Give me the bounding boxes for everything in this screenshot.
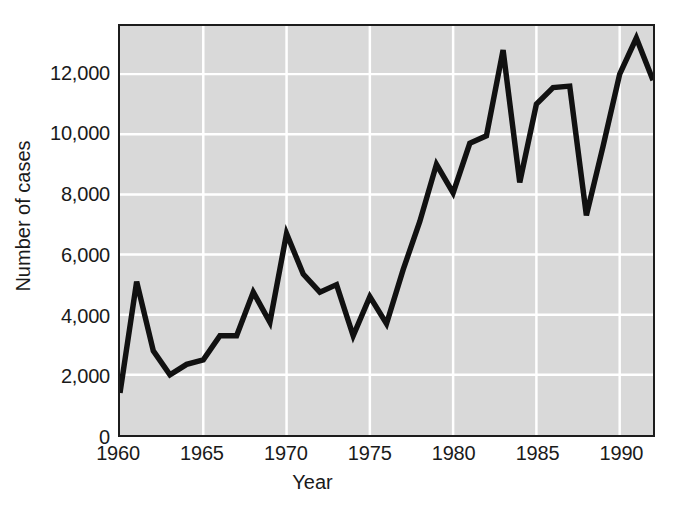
- x-axis-tick-label: 1985: [516, 443, 560, 463]
- y-axis-tick-label: 10,000: [50, 123, 110, 143]
- y-axis-tick-label: 2,000: [61, 366, 110, 386]
- x-axis-tick-label: 1960: [96, 443, 140, 463]
- plot-area: [118, 24, 655, 437]
- y-axis-title-text: Number of cases: [12, 140, 34, 291]
- x-axis-tick-label: 1975: [348, 443, 392, 463]
- x-axis-tick-label: 1980: [432, 443, 476, 463]
- plot-svg: [120, 26, 653, 435]
- y-axis-tick-label: 12,000: [50, 63, 110, 83]
- x-axis-tick-label: 1970: [264, 443, 308, 463]
- x-axis-title-text: Year: [292, 471, 332, 493]
- y-axis-title: Number of cases: [12, 101, 34, 331]
- data-series-line: [120, 38, 653, 393]
- x-axis-title: Year: [0, 471, 685, 493]
- chart-figure: 02,0004,0006,0008,00010,00012,000 196019…: [0, 0, 685, 512]
- y-axis-tick-label: 4,000: [61, 306, 110, 326]
- x-axis-tick-labels: 1960196519701975198019851990: [0, 443, 685, 473]
- x-axis-tick-label: 1990: [600, 443, 644, 463]
- x-axis-tick-label: 1965: [180, 443, 224, 463]
- y-axis-tick-label: 8,000: [61, 184, 110, 204]
- y-axis-tick-label: 6,000: [61, 245, 110, 265]
